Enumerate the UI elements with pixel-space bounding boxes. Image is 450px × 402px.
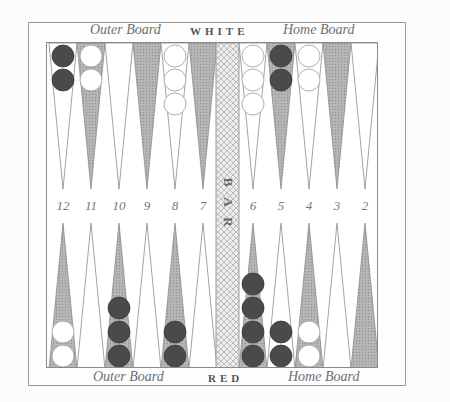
- label-bottom-home-board: Home Board: [288, 369, 359, 385]
- white-checker-point-19-0[interactable]: [242, 45, 264, 67]
- point-number-11: 11: [77, 198, 105, 214]
- point-7[interactable]: [189, 223, 217, 368]
- point-16[interactable]: [133, 43, 161, 189]
- point-2[interactable]: [351, 223, 378, 368]
- white-checker-point-19-1[interactable]: [242, 69, 264, 91]
- point-number-4: 4: [295, 198, 323, 214]
- label-white-side: WHITE: [190, 25, 249, 37]
- bar-label-letter: A: [221, 197, 236, 207]
- white-checker-point-17-1[interactable]: [164, 69, 186, 91]
- point-number-10: 10: [105, 198, 133, 214]
- red-checker-point-5-0[interactable]: [270, 345, 292, 367]
- white-checker-point-21-0[interactable]: [298, 45, 320, 67]
- label-top-outer-board: Outer Board: [90, 22, 161, 38]
- point-number-9: 9: [133, 198, 161, 214]
- label-red-side: RED: [208, 372, 243, 384]
- red-checker-point-10-0[interactable]: [108, 345, 130, 367]
- point-number-7: 7: [189, 198, 217, 214]
- red-checker-point-6-0[interactable]: [242, 345, 264, 367]
- point-number-12: 12: [49, 198, 77, 214]
- point-11[interactable]: [77, 223, 105, 368]
- white-checker-point-17-0[interactable]: [164, 45, 186, 67]
- white-checker-point-12-0[interactable]: [52, 345, 74, 367]
- red-checker-point-10-1[interactable]: [108, 321, 130, 343]
- white-checker-point-4-1[interactable]: [298, 321, 320, 343]
- red-checker-point-8-1[interactable]: [164, 321, 186, 343]
- label-bottom-outer-board: Outer Board: [93, 369, 164, 385]
- white-checker-point-17-2[interactable]: [164, 93, 186, 115]
- red-checker-point-6-3[interactable]: [242, 273, 264, 295]
- red-checker-point-10-2[interactable]: [108, 297, 130, 319]
- point-number-5: 5: [267, 198, 295, 214]
- white-checker-point-21-1[interactable]: [298, 69, 320, 91]
- label-top-home-board: Home Board: [283, 22, 354, 38]
- point-9[interactable]: [133, 223, 161, 368]
- point-23[interactable]: [351, 43, 378, 189]
- red-checker-point-5-1[interactable]: [270, 321, 292, 343]
- white-checker-point-14-0[interactable]: [80, 45, 102, 67]
- red-checker-point-6-1[interactable]: [242, 321, 264, 343]
- red-checker-point-8-0[interactable]: [164, 345, 186, 367]
- point-3[interactable]: [323, 223, 351, 368]
- point-number-8: 8: [161, 198, 189, 214]
- bar-label-letter: B: [221, 178, 236, 187]
- white-checker-point-4-0[interactable]: [298, 345, 320, 367]
- point-22[interactable]: [323, 43, 351, 189]
- point-number-6: 6: [239, 198, 267, 214]
- backgammon-board: BAR 121110987654321: [46, 42, 378, 368]
- point-number-2: 2: [351, 198, 378, 214]
- point-15[interactable]: [105, 43, 133, 189]
- red-checker-point-20-0[interactable]: [270, 45, 292, 67]
- red-checker-point-13-0[interactable]: [52, 45, 74, 67]
- point-18[interactable]: [189, 43, 217, 189]
- white-checker-point-14-1[interactable]: [80, 69, 102, 91]
- white-checker-point-19-2[interactable]: [242, 93, 264, 115]
- red-checker-point-6-2[interactable]: [242, 297, 264, 319]
- bar-label-letter: R: [221, 217, 236, 227]
- red-checker-point-20-1[interactable]: [270, 69, 292, 91]
- white-checker-point-12-1[interactable]: [52, 321, 74, 343]
- red-checker-point-13-1[interactable]: [52, 69, 74, 91]
- point-number-3: 3: [323, 198, 351, 214]
